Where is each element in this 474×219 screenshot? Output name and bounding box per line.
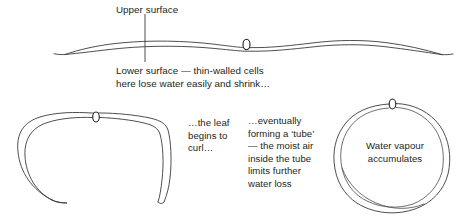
tube-leaf-trailing-end bbox=[342, 168, 424, 208]
curling-leaf-outer-line bbox=[18, 112, 171, 202]
label-upper-surface: Upper surface bbox=[116, 4, 178, 16]
curling-leaf-inner-line bbox=[25, 117, 163, 202]
curling-leaf-left-tip bbox=[52, 200, 67, 203]
flat-leaf-cross-section bbox=[54, 39, 453, 54]
label-leaf-curl: …the leaf begins to curl… bbox=[188, 117, 240, 155]
stoma-icon bbox=[243, 39, 250, 49]
flat-leaf-right-tip bbox=[442, 54, 453, 55]
flat-leaf-lower-surface-line bbox=[65, 45, 442, 55]
curling-leaf-cross-section bbox=[18, 112, 171, 204]
label-lower-surface: Lower surface — thin-walled cells here l… bbox=[116, 65, 270, 90]
label-tube: …eventually forming a ‘tube’ — the moist… bbox=[248, 115, 332, 190]
flat-leaf-upper-surface-line bbox=[65, 40, 442, 54]
curling-leaf-right-tip bbox=[158, 202, 164, 204]
flat-leaf-left-tip bbox=[54, 54, 65, 55]
leaf-curling-diagram bbox=[0, 0, 474, 219]
stoma-icon bbox=[389, 99, 396, 109]
stoma-icon bbox=[93, 112, 100, 122]
label-water-vapour: Water vapour accumulates bbox=[352, 140, 438, 166]
